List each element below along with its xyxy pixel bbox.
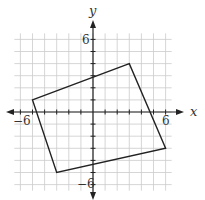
y-tick-label-neg6: −6	[77, 177, 95, 191]
x-tick-label-neg6: −6	[13, 114, 31, 128]
y-tick-label-6: 6	[82, 33, 90, 47]
quadrilateral	[33, 64, 166, 173]
x-axis-right-arrow-icon	[176, 109, 184, 115]
coordinate-plane: x y −6 6 6 −6	[0, 0, 205, 200]
y-axis-top-arrow-icon	[90, 20, 96, 28]
y-axis-bottom-arrow-icon	[90, 192, 96, 200]
x-axis-label: x	[190, 104, 198, 119]
x-tick-label-6: 6	[162, 114, 170, 128]
y-axis-label: y	[88, 3, 97, 18]
